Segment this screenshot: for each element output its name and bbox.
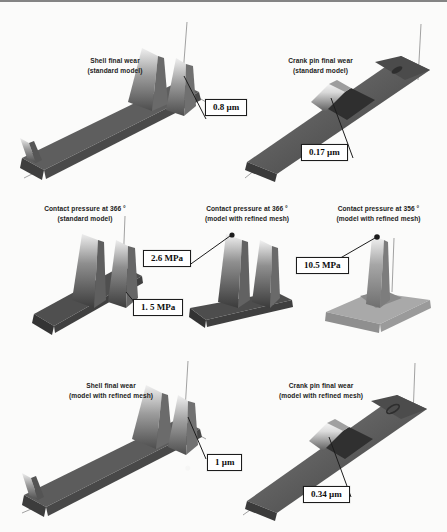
- caption-line-2: (standard model): [253, 66, 388, 76]
- value-box-crankpin-standard: 0.17 µm: [301, 144, 348, 161]
- caption-line-2: (model with refined mesh): [310, 214, 447, 224]
- caption-line-1: Contact pressure at 366 °: [179, 204, 315, 214]
- caption-line-1: Crank pin final wear: [253, 56, 388, 66]
- panel-caption-pressure-366-refined: Contact pressure at 366 ° (model with re…: [179, 204, 315, 223]
- panel-caption-shell-refined: Shell final wear (model with refined mes…: [43, 381, 179, 400]
- panel-caption-crankpin-refined: Crank pin final wear (model with refined…: [245, 381, 397, 400]
- caption-line-2: (model with refined mesh): [179, 214, 315, 224]
- panel-caption-shell-standard: Shell final wear (standard model): [55, 56, 175, 75]
- caption-line-2: (standard model): [55, 66, 175, 76]
- value-box-pressure-356-refined: 10.5 MPa: [296, 257, 349, 274]
- scan-edge-line: [0, 0, 447, 2]
- caption-line-1: Shell final wear: [55, 56, 175, 66]
- caption-line-2: (model with refined mesh): [245, 391, 397, 401]
- value-box-crankpin-refined: 0.34 µm: [303, 486, 350, 503]
- value-box-pressure-366-refined: 2.6 MPa: [143, 250, 191, 267]
- panel-shell-final-wear-standard: Shell final wear (standard model): [0, 10, 235, 185]
- panel-crank-pin-final-wear-refined: Crank pin final wear (model with refined…: [225, 355, 447, 532]
- panel-shell-final-wear-refined: Shell final wear (model with refined mes…: [0, 355, 235, 532]
- caption-line-1: Contact pressure at 366 °: [30, 204, 140, 214]
- caption-line-1: Contact pressure at 356 °: [310, 204, 447, 214]
- panel-caption-pressure-356-refined: Contact pressure at 356 ° (model with re…: [310, 204, 447, 223]
- panel-contact-pressure-366-refined: Contact pressure at 366 ° (model with re…: [180, 196, 310, 336]
- caption-line-2: (model with refined mesh): [43, 391, 179, 401]
- panel-caption-crankpin-standard: Crank pin final wear (standard model): [253, 56, 388, 75]
- caption-line-1: Crank pin final wear: [245, 381, 397, 391]
- caption-line-2: (standard model): [30, 214, 140, 224]
- value-box-pressure-366-standard: 1. 5 MPa: [133, 299, 183, 316]
- panel-caption-pressure-366-standard: Contact pressure at 366 ° (standard mode…: [30, 204, 140, 223]
- surface-plot-shell-standard: [0, 10, 235, 185]
- caption-line-1: Shell final wear: [43, 381, 179, 391]
